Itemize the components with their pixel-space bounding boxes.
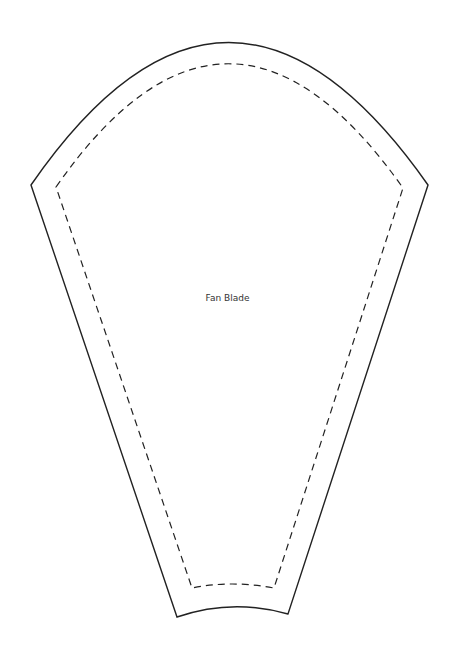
template-label: Fan Blade [0, 293, 455, 303]
cut-line [31, 43, 428, 618]
fan-blade-template [0, 0, 455, 648]
seam-line [56, 64, 403, 588]
